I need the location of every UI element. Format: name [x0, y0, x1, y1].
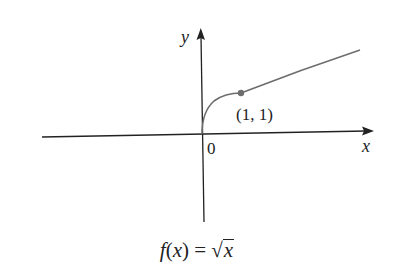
sqrt-curve — [202, 50, 360, 134]
caption-x: x — [173, 238, 182, 262]
caption-open: ( — [166, 238, 173, 262]
caption-close-eq: ) = — [182, 238, 211, 262]
radical-icon: √ — [211, 238, 223, 262]
caption-radicand: x — [223, 239, 234, 261]
x-axis — [42, 131, 366, 137]
x-axis-label: x — [361, 136, 370, 156]
point-1-1 — [238, 90, 244, 96]
y-axis-label: y — [179, 27, 189, 47]
sqrt-function-graph: y x 0 (1, 1) — [0, 0, 394, 272]
origin-label: 0 — [207, 139, 216, 158]
function-caption: f(x) = √x — [0, 238, 394, 263]
point-label: (1, 1) — [236, 105, 273, 124]
